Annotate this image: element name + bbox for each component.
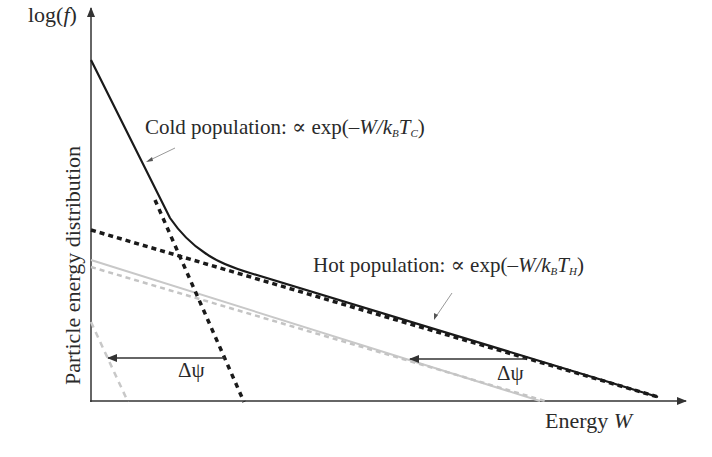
total-distribution-curve (91, 60, 658, 397)
cold-label-var: W (359, 115, 377, 139)
x-axis-label-text: Energy (545, 408, 608, 433)
hot-label-suffix: ) (577, 253, 584, 277)
diagram-canvas (0, 0, 712, 457)
cold-label-prefix: Cold population: ∝ exp(– (145, 115, 359, 139)
x-axis-label: Energy W (545, 408, 632, 434)
shifted-hot-dotted-line (91, 267, 545, 401)
hot-label-k: k (541, 253, 550, 277)
cold-label-k: k (383, 115, 392, 139)
y-axis-top-label: log(f) (28, 2, 77, 28)
cold-label-t: T (399, 115, 411, 139)
delta-psi-label-left: Δψ (178, 358, 205, 383)
log-prefix: log( (28, 2, 63, 27)
x-axis-var: W (614, 408, 632, 433)
cold-leader-arrowhead (146, 157, 153, 162)
log-suffix: ) (70, 2, 77, 27)
hot-label-prefix: Hot population: ∝ exp(– (313, 253, 518, 277)
cold-population-label: Cold population: ∝ exp(–W/kBTC) (145, 115, 425, 140)
cold-label-suffix: ) (418, 115, 425, 139)
shifted-cold-dashed-line (91, 322, 128, 402)
hot-label-t-sub: H (569, 265, 577, 277)
hot-population-label: Hot population: ∝ exp(–W/kBTH) (313, 253, 584, 278)
cold-label-t-sub: C (410, 127, 417, 139)
delta-psi-label-right: Δψ (497, 361, 524, 386)
hot-label-t: T (557, 253, 569, 277)
y-axis-label: Particle energy distribution (60, 146, 86, 385)
cold-label-k-sub: B (392, 127, 399, 139)
hot-leader-line (435, 293, 452, 318)
hot-label-var: W (518, 253, 536, 277)
